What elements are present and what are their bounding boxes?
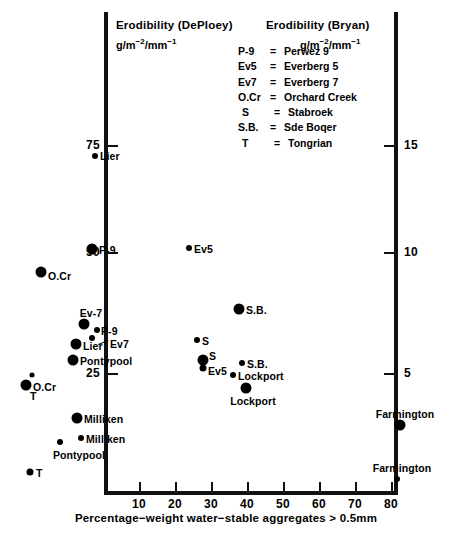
data-point-marker — [57, 439, 63, 445]
legend-key: Ev5 — [238, 59, 270, 74]
legend-row: S.B. = Sde Boqer — [238, 120, 357, 135]
legend-equals: = — [270, 120, 284, 135]
data-point-label: Milliken — [84, 413, 123, 425]
right-tick-label-10: 10 — [404, 245, 434, 259]
x-tick-60 — [319, 482, 321, 491]
legend-row: T = Tongrian — [238, 136, 357, 151]
scatter-plot-figure: Erodibility (DePloey) g/m−2/mm−1 Erodibi… — [0, 0, 452, 542]
data-point-label: P-9 — [99, 244, 116, 256]
legend-row: Ev7 = Everberg 7 — [238, 75, 357, 90]
left-tick-25 — [108, 373, 118, 375]
x-tick-50 — [283, 482, 285, 491]
data-point-label: S — [202, 335, 209, 347]
data-point-marker — [78, 435, 84, 441]
data-point-marker — [36, 267, 47, 278]
data-point-label: Pontypool — [53, 449, 105, 461]
x-tick-label-50: 50 — [268, 497, 298, 511]
left-axis-units: g/m−2/mm−1 — [116, 37, 176, 51]
legend-equals: = — [270, 75, 284, 90]
legend-equals: = — [270, 44, 284, 59]
data-point-label: Lier — [83, 340, 103, 352]
x-axis-title: Percentage−weight water−stable aggregate… — [0, 512, 452, 524]
data-point-marker — [394, 476, 400, 482]
legend-equals: = — [274, 136, 288, 151]
legend-value: Stabroek — [288, 105, 333, 120]
data-point-marker — [30, 373, 35, 378]
legend: P-9 = Perwez 9 Ev5 = Everberg 5 Ev7 = Ev… — [238, 44, 357, 151]
legend-row: Ev5 = Everberg 5 — [238, 59, 357, 74]
legend-key: Ev7 — [238, 75, 270, 90]
data-point-label: Ev5 — [194, 243, 213, 255]
x-tick-label-10: 10 — [124, 497, 154, 511]
left-tick-75 — [108, 145, 118, 147]
legend-key: S.B. — [238, 120, 270, 135]
x-tick-20 — [175, 482, 177, 491]
legend-value: Perwez 9 — [284, 44, 329, 59]
right-tick-5 — [384, 373, 394, 375]
legend-key: S — [238, 105, 274, 120]
data-point-label: T — [36, 467, 43, 479]
right-tick-label-15: 15 — [404, 138, 434, 152]
data-point-label: Ev-7 — [80, 307, 103, 319]
legend-row: P-9 = Perwez 9 — [238, 44, 357, 59]
data-point-label: Farmington — [373, 462, 432, 474]
legend-value: Sde Boqer — [284, 120, 337, 135]
data-point-label: S.B. — [247, 358, 268, 370]
data-point-label: Ev5 — [208, 365, 227, 377]
legend-key: T — [238, 136, 274, 151]
bottom-axis-line — [104, 491, 398, 495]
data-point-marker — [194, 337, 200, 343]
x-tick-label-80: 80 — [376, 497, 406, 511]
data-point-label: Ev7 — [110, 338, 129, 350]
data-point-marker — [68, 355, 79, 366]
data-point-label: Lockport — [238, 370, 284, 382]
right-tick-label-5: 5 — [404, 366, 434, 380]
data-point-marker — [186, 245, 192, 251]
data-point-label: Farmington — [376, 408, 435, 420]
legend-value: Orchard Creek — [284, 90, 357, 105]
legend-key: P-9 — [238, 44, 270, 59]
data-point-label: Lier — [100, 150, 120, 162]
legend-row: S = Stabroek — [238, 105, 357, 120]
x-tick-label-20: 20 — [160, 497, 190, 511]
left-axis-title: Erodibility (DePloey) — [116, 19, 233, 31]
data-point-marker — [230, 372, 236, 378]
data-point-label: P-9 — [101, 325, 118, 337]
data-point-marker — [92, 153, 98, 159]
x-tick-label-30: 30 — [196, 497, 226, 511]
x-tick-10 — [139, 482, 141, 491]
x-tick-label-60: 60 — [304, 497, 334, 511]
data-point-label: O.Cr — [48, 270, 71, 282]
legend-value: Everberg 5 — [284, 59, 338, 74]
data-point-marker — [239, 360, 245, 366]
data-point-marker — [27, 469, 34, 476]
x-tick-40 — [247, 482, 249, 491]
data-point-marker — [21, 380, 32, 391]
left-tick-label-25: 25 — [62, 366, 100, 380]
x-tick-80 — [391, 482, 393, 491]
data-point-marker — [395, 420, 406, 431]
legend-equals: = — [270, 90, 284, 105]
data-point-marker — [94, 327, 100, 333]
left-tick-label-75: 75 — [62, 138, 100, 152]
data-point-marker — [87, 244, 98, 255]
x-tick-30 — [211, 482, 213, 491]
data-point-marker — [79, 319, 90, 330]
x-tick-label-40: 40 — [232, 497, 262, 511]
legend-key: O.Cr — [238, 90, 270, 105]
data-point-label: S.B. — [246, 304, 267, 316]
right-axis-title: Erodibility (Bryan) — [266, 19, 369, 31]
data-point-marker — [234, 304, 245, 315]
legend-equals: = — [274, 105, 288, 120]
data-point-marker — [72, 413, 83, 424]
data-point-label: T — [30, 390, 37, 402]
right-tick-15 — [384, 145, 394, 147]
data-point-marker — [71, 339, 82, 350]
data-point-marker — [241, 383, 252, 394]
legend-value: Everberg 7 — [284, 75, 338, 90]
x-tick-70 — [355, 482, 357, 491]
data-point-label: S — [209, 350, 216, 362]
legend-equals: = — [270, 59, 284, 74]
data-point-label: Lockport — [230, 395, 276, 407]
x-tick-label-70: 70 — [340, 497, 370, 511]
